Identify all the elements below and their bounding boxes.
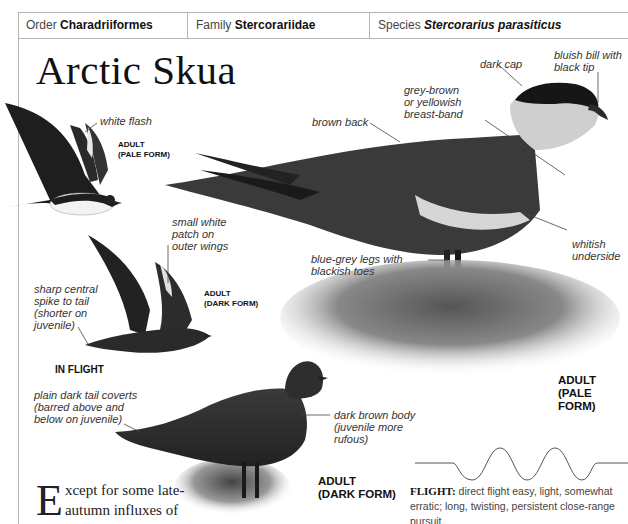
form-label-pale-standing: ADULT (PALE FORM) (558, 374, 628, 413)
form-label-dark-standing: ADULT (DARK FORM) (318, 475, 396, 501)
dark-form-flight-bird (85, 235, 212, 353)
annotation-brown-back: brown back (312, 116, 368, 128)
annotation-whitish-underside: whitish underside (572, 238, 620, 262)
annotation-small-white-patch: small white patch on outer wings (172, 216, 228, 252)
annotation-central-spike: sharp central spike to tail (shorter on … (34, 283, 98, 331)
annotation-dark-cap: dark cap (480, 58, 522, 70)
flight-pattern-wave (415, 448, 628, 480)
annotation-blue-grey-legs: blue-grey legs with blackish toes (311, 253, 403, 277)
annotation-dark-brown-body: dark brown body (juvenile more rufous) (334, 409, 415, 445)
flight-label: FLIGHT: (410, 485, 456, 497)
annotation-white-flash: white flash (100, 115, 152, 127)
in-flight-label: IN FLIGHT (55, 364, 104, 375)
flight-description: FLIGHT: direct flight easy, light, somew… (410, 484, 628, 524)
form-label-dark-flight: ADULT (DARK FORM) (204, 289, 258, 309)
drop-cap: E (36, 482, 63, 520)
body-text: E xcept for some late-autumn influxes of… (36, 480, 186, 524)
annotation-bluish-bill: bluish bill with black tip (554, 49, 622, 73)
form-label-pale-flight: ADULT (PALE FORM) (118, 140, 170, 160)
rock-mound (280, 260, 620, 376)
annotation-breast-band: grey-brown or yellowish breast-band (404, 84, 463, 120)
annotation-tail-coverts: plain dark tail coverts (barred above an… (34, 389, 137, 425)
